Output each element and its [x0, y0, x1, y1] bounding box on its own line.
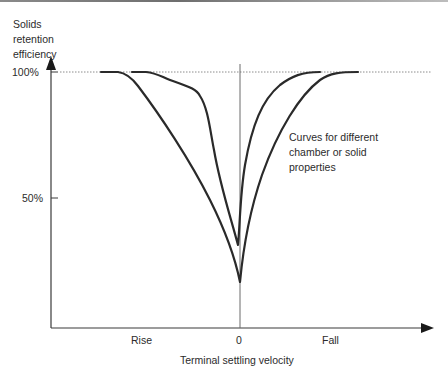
x-tick-label-rise: Rise: [131, 333, 152, 347]
outer-efficiency-curve: [101, 72, 358, 282]
y-axis-title: Solids retention efficiency: [13, 17, 83, 62]
y-tick-label-100: 100%: [12, 65, 39, 79]
x-axis-arrow-icon: [421, 323, 434, 333]
x-axis-title: Terminal settling velocity: [180, 353, 294, 367]
y-tick-label-50: 50%: [22, 191, 43, 205]
curves-annotation: Curves for different chamber or solid pr…: [289, 130, 389, 175]
x-tick-label-zero: 0: [236, 333, 242, 347]
x-tick-label-fall: Fall: [322, 333, 339, 347]
